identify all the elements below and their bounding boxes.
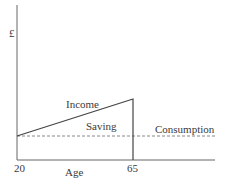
y-axis-label: £ [9, 27, 15, 39]
tick-label-65: 65 [127, 162, 139, 174]
saving-label: Saving [86, 120, 117, 132]
tick-label-20: 20 [14, 162, 26, 174]
life-cycle-diagram: £ 20 65 Age Income Saving Consumption [0, 0, 225, 185]
income-label: Income [66, 98, 99, 110]
consumption-label: Consumption [155, 123, 215, 135]
x-axis-label: Age [65, 166, 83, 178]
